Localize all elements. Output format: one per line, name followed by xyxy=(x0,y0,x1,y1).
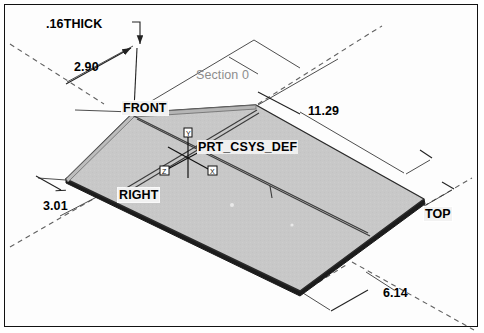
dimension-offset: 3.01 xyxy=(43,199,68,213)
dimension-height: 2.90 xyxy=(74,60,99,74)
svg-text:Y: Y xyxy=(186,130,191,137)
cad-geometry: Y Z X xyxy=(0,0,484,333)
svg-text:Z: Z xyxy=(162,168,167,175)
datum-label-right[interactable]: RIGHT xyxy=(118,188,159,202)
datum-label-top[interactable]: TOP xyxy=(424,207,452,221)
section-label: Section 0 xyxy=(196,68,249,82)
cad-viewport: Y Z X .16THICK 2.90 11.29 3.01 6.14 Sect… xyxy=(0,0,484,333)
svg-text:X: X xyxy=(210,168,215,175)
dimension-thickness: .16THICK xyxy=(46,17,102,31)
csys-label[interactable]: PRT_CSYS_DEF xyxy=(197,140,298,154)
dimension-length: 11.29 xyxy=(308,104,339,118)
dimension-width: 6.14 xyxy=(383,286,408,300)
datum-label-front[interactable]: FRONT xyxy=(122,101,168,115)
